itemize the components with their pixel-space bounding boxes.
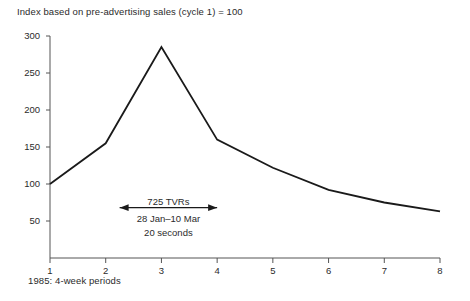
chart-figure: Index based on pre-advertising sales (cy… — [0, 0, 470, 301]
sales-index-line — [50, 47, 440, 211]
x-axis-ticks — [50, 258, 440, 263]
x-axis-tick-label: 7 — [374, 265, 394, 276]
x-axis-tick-label: 6 — [319, 265, 339, 276]
y-axis-ticks — [46, 36, 50, 221]
y-axis-tick-label: 150 — [10, 141, 40, 152]
annotation-duration: 20 seconds — [88, 227, 248, 238]
x-axis-caption: 1985: 4-week periods — [28, 275, 121, 286]
x-axis-tick-label: 8 — [430, 265, 450, 276]
x-axis-tick-label: 4 — [207, 265, 227, 276]
y-axis-tick-label: 200 — [10, 104, 40, 115]
chart-plot-area — [0, 0, 470, 301]
annotation-tvrs: 725 TVRs — [88, 196, 248, 207]
x-axis-tick-label: 3 — [151, 265, 171, 276]
y-axis-tick-label: 250 — [10, 67, 40, 78]
y-axis-tick-label: 300 — [10, 30, 40, 41]
x-axis-tick-label: 5 — [263, 265, 283, 276]
annotation-dates: 28 Jan–10 Mar — [88, 213, 248, 224]
y-axis-tick-label: 100 — [10, 178, 40, 189]
y-axis-tick-label: 50 — [10, 215, 40, 226]
